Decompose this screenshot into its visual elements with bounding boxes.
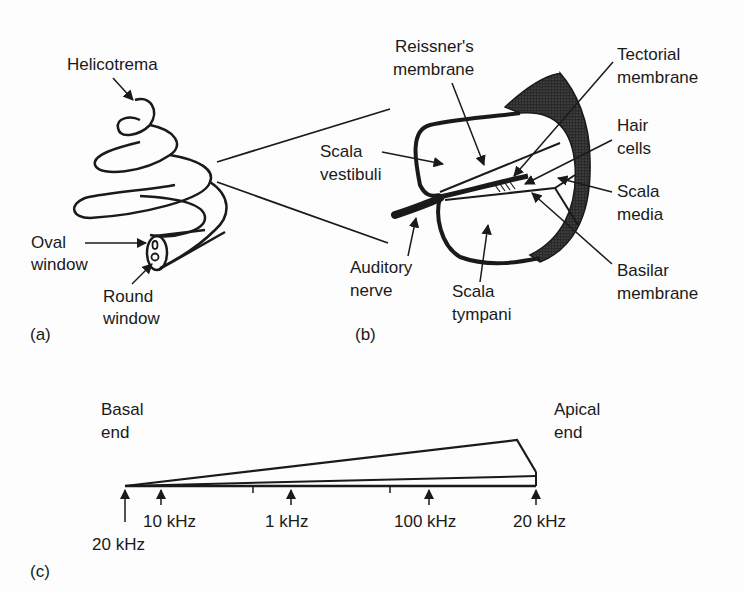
cochlea-figure: Helicotrema Oval window Round window (a) [0,0,745,593]
freq-label-10khz: 10 kHz [143,512,196,531]
label-media-2: media [617,205,664,224]
label-apical-1: Apical [554,400,600,419]
panel-a-cochlea-coil [74,99,390,270]
label-media-1: Scala [617,182,660,201]
panel-b-labels: Reissner's membrane Tectorial membrane H… [320,37,698,344]
label-helicotrema: Helicotrema [67,55,158,74]
label-hair-2: cells [617,139,651,158]
label-basilar-1: Basilar [617,261,669,280]
arrow-helicotrema [113,78,133,100]
label-reissner-1: Reissner's [395,37,474,56]
freq-label-1khz: 1 kHz [265,512,308,531]
label-tympani-1: Scala [452,282,495,301]
label-basilar-2: membrane [617,284,698,303]
arrow-round-window [132,264,152,284]
arrow-hair-cells [525,140,612,184]
label-round-window-2: window [102,309,160,328]
freq-label-100khz: 100 kHz [394,512,456,531]
label-apical-2: end [554,423,582,442]
panel-b-tag: (b) [355,325,376,344]
panel-b-cross-section [395,73,590,263]
label-oval-window-2: window [30,255,88,274]
label-tectorial-2: membrane [617,68,698,87]
arrow-reissner [452,83,484,165]
arrow-scala-tympani [480,225,488,282]
panel-c-tag: (c) [30,562,50,581]
freq-label-20khz-basal: 20 kHz [92,535,145,554]
label-round-window-1: Round [103,287,153,306]
freq-label-20khz-apical: 20 kHz [513,512,566,531]
arrow-scala-vestibuli [382,152,443,164]
panel-a-tag: (a) [30,325,51,344]
label-tympani-2: tympani [452,305,512,324]
label-tectorial-1: Tectorial [617,45,680,64]
label-basal-2: end [101,423,129,442]
label-vestibuli-1: Scala [320,142,363,161]
label-hair-1: Hair [617,116,649,135]
label-reissner-2: membrane [393,60,474,79]
label-auditory-2: nerve [350,281,393,300]
label-auditory-1: Auditory [350,258,413,277]
arrow-auditory-nerve [408,218,416,256]
panel-c-basilar-membrane: Basal end Apical end 20 kHz 10 kHz 1 kHz… [30,400,600,581]
label-oval-window-1: Oval [31,233,66,252]
label-vestibuli-2: vestibuli [320,165,381,184]
figure-svg: Helicotrema Oval window Round window (a) [0,0,745,593]
label-basal-1: Basal [101,400,144,419]
